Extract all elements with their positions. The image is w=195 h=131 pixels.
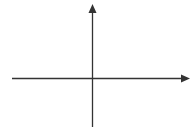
x-axis-arrowhead-icon	[181, 75, 190, 83]
y-axis-arrowhead-icon	[89, 4, 97, 13]
coordinate-axes-diagram	[0, 0, 195, 131]
axes-svg	[0, 0, 195, 131]
